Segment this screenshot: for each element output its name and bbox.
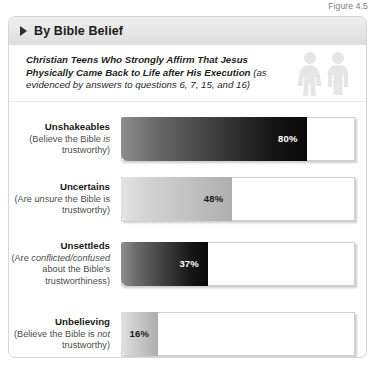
bar-label-sub: (Are conflicted/confused about the Bible… <box>9 253 110 288</box>
bar-label-sub: (Believe the Bible is trustworthy) <box>9 134 110 157</box>
bar-track: 37% <box>121 242 355 286</box>
bar-track: 48% <box>121 177 355 221</box>
bar-label-sub-post: about the Bible's trustworthiness) <box>42 264 110 286</box>
figure-caption: Figure 4.5 <box>328 1 368 11</box>
triangle-right-icon <box>20 26 27 36</box>
bar-label-sub: (Believe the Bible is not trustworthy) <box>9 329 110 352</box>
bar-label-sub-post: the Bible is trustworthy) <box>62 194 110 216</box>
bar-fill: 48% <box>121 177 232 221</box>
bar-label-group: Uncertains (Are unsure the Bible is trus… <box>9 181 121 217</box>
bars-container: Unshakeables (Believe the Bible is trust… <box>9 102 366 358</box>
subtitle-block: Christian Teens Who Strongly Affirm That… <box>9 45 366 102</box>
chart-subtitle-strong: Christian Teens Who Strongly Affirm That… <box>26 54 251 78</box>
female-person-icon <box>298 52 322 96</box>
panel-header-title: By Bible Belief <box>34 24 123 38</box>
bar-label-sub-pre: (Believe the Bible is <box>14 329 97 339</box>
bar-value-label: 37% <box>179 258 208 269</box>
chart-panel: By Bible Belief Christian Teens Who Stro… <box>8 16 367 358</box>
bar-label-title: Unshakeables <box>9 121 110 134</box>
bar-label-sub-pre: (Believe the Bible <box>29 134 103 144</box>
bar-track: 80% <box>121 117 355 161</box>
bar-label-sub-emphasis: conflicted/confused <box>31 253 110 263</box>
bar-fill: 37% <box>121 242 208 286</box>
bar-row: Unsettleds (Are conflicted/confused abou… <box>9 229 366 299</box>
bar-value-label: 16% <box>129 328 158 339</box>
bar-label-sub-post: trustworthy) <box>62 340 110 350</box>
bar-label-title: Uncertains <box>9 181 110 194</box>
bar-row: Unbelieving (Believe the Bible is not tr… <box>9 299 366 358</box>
people-icons-group <box>293 49 355 97</box>
bar-fill: 16% <box>121 312 158 356</box>
bar-fill: 80% <box>121 117 307 161</box>
bar-label-group: Unbelieving (Believe the Bible is not tr… <box>9 316 121 352</box>
bar-label-sub-emphasis: unsure <box>34 194 62 204</box>
bar-row: Uncertains (Are unsure the Bible is trus… <box>9 169 366 229</box>
bar-label-sub-emphasis: not <box>97 329 110 339</box>
bar-label-group: Unsettleds (Are conflicted/confused abou… <box>9 240 121 288</box>
bar-label-sub-pre: (Are <box>14 194 34 204</box>
chart-subtitle: Christian Teens Who Strongly Affirm That… <box>26 54 284 92</box>
bar-value-label: 80% <box>278 133 307 144</box>
bar-row: Unshakeables (Believe the Bible is trust… <box>9 109 366 169</box>
bar-label-title: Unsettleds <box>9 240 110 253</box>
male-person-icon <box>328 52 348 95</box>
bar-label-sub-pre: (Are <box>11 253 31 263</box>
bar-label-group: Unshakeables (Believe the Bible is trust… <box>9 121 121 157</box>
bar-label-sub-emphasis: is <box>103 134 110 144</box>
bar-label-title: Unbelieving <box>9 316 110 329</box>
panel-header: By Bible Belief <box>9 17 366 45</box>
bar-track: 16% <box>121 312 355 356</box>
bar-label-sub: (Are unsure the Bible is trustworthy) <box>9 194 110 217</box>
bar-label-sub-post: trustworthy) <box>62 145 110 155</box>
bar-value-label: 48% <box>204 193 233 204</box>
